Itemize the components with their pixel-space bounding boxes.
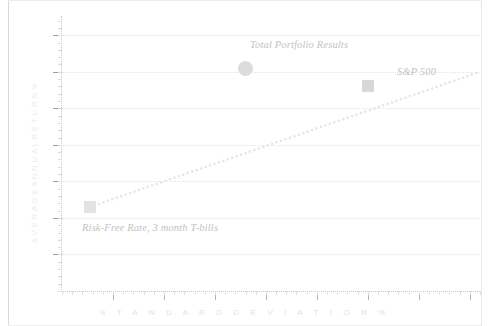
y-axis-minor-tick	[58, 211, 62, 212]
x-axis-minor-tick	[409, 291, 410, 295]
x-axis-minor-tick	[358, 291, 359, 295]
x-axis-minor-tick	[266, 291, 267, 295]
x-axis-minor-tick	[449, 291, 450, 295]
x-axis-minor-tick	[337, 291, 338, 295]
chart-figure: A V E R A G E A N N U A L R E T U R N % …	[0, 0, 490, 326]
y-axis-minor-tick	[58, 116, 62, 117]
x-axis-minor-tick	[82, 291, 83, 295]
y-axis-minor-tick	[58, 174, 62, 175]
plot-area: Total Portfolio Results S&P 500 Risk-Fre…	[62, 17, 480, 291]
data-point-2	[362, 80, 374, 92]
y-axis-minor-tick	[58, 225, 62, 226]
gridline-horizontal	[62, 218, 480, 219]
data-label-sp500: S&P 500	[397, 66, 436, 77]
y-axis-title: A V E R A G E A N N U A L R E T U R N %	[26, 0, 42, 326]
y-axis-minor-tick	[58, 145, 62, 146]
y-axis-minor-tick	[58, 152, 62, 153]
x-axis-minor-tick	[378, 291, 379, 295]
y-axis-minor-tick	[58, 269, 62, 270]
gridline-horizontal	[62, 254, 480, 255]
data-label-total-portfolio-results: Total Portfolio Results	[250, 39, 348, 50]
y-axis-minor-tick	[58, 240, 62, 241]
x-axis-title: S T A N D A R D D E V I A T I O N %	[0, 308, 490, 317]
x-axis-minor-tick	[215, 291, 216, 295]
y-axis-minor-tick	[58, 196, 62, 197]
y-axis-minor-tick	[58, 28, 62, 29]
x-axis-minor-tick	[133, 291, 134, 295]
y-axis-minor-tick	[58, 247, 62, 248]
x-axis-minor-tick	[276, 291, 277, 295]
y-axis-minor-tick	[58, 64, 62, 65]
y-axis-minor-tick	[58, 218, 62, 219]
y-axis-minor-tick	[58, 21, 62, 22]
x-axis-minor-tick	[205, 291, 206, 295]
y-axis-minor-tick	[58, 167, 62, 168]
x-axis-minor-tick	[368, 291, 369, 295]
x-axis-minor-tick	[184, 291, 185, 295]
x-axis-minor-tick	[225, 291, 226, 295]
x-axis-minor-tick	[398, 291, 399, 295]
gridline-horizontal	[62, 108, 480, 109]
y-axis-minor-tick	[58, 130, 62, 131]
y-axis-minor-tick	[58, 108, 62, 109]
gridline-horizontal	[62, 181, 480, 182]
x-axis-minor-tick	[154, 291, 155, 295]
x-axis-minor-tick	[480, 291, 481, 295]
x-axis-minor-tick	[235, 291, 236, 295]
y-axis-minor-tick	[58, 254, 62, 255]
data-label-risk-free-rate: Risk-Free Rate, 3 month T-bills	[82, 222, 218, 233]
x-axis-minor-tick	[327, 291, 328, 295]
x-axis-minor-tick	[93, 291, 94, 295]
y-axis-minor-tick	[58, 43, 62, 44]
y-axis-minor-tick	[58, 57, 62, 58]
y-axis-minor-tick	[58, 262, 62, 263]
x-axis-minor-tick	[347, 291, 348, 295]
y-axis-minor-tick	[58, 138, 62, 139]
y-axis-minor-tick	[58, 101, 62, 102]
x-axis-minor-tick	[307, 291, 308, 295]
figure-border-left	[8, 0, 9, 326]
x-axis-minor-tick	[439, 291, 440, 295]
gridline-horizontal	[62, 35, 480, 36]
y-axis-minor-tick	[58, 72, 62, 73]
x-axis-minor-tick	[62, 291, 63, 295]
x-axis-minor-tick	[256, 291, 257, 295]
x-axis-minor-tick	[246, 291, 247, 295]
y-axis-minor-tick	[58, 159, 62, 160]
y-axis-minor-tick	[58, 233, 62, 234]
y-axis-minor-tick	[58, 94, 62, 95]
y-axis-minor-tick	[58, 79, 62, 80]
x-axis-minor-tick	[103, 291, 104, 295]
y-axis-minor-tick	[58, 35, 62, 36]
x-axis-minor-tick	[164, 291, 165, 295]
x-axis-minor-tick	[388, 291, 389, 295]
capital-market-line	[62, 17, 480, 291]
y-axis-minor-tick	[58, 189, 62, 190]
x-axis-minor-tick	[123, 291, 124, 295]
x-axis-minor-tick	[195, 291, 196, 295]
y-axis-minor-tick	[58, 86, 62, 87]
x-axis-minor-tick	[429, 291, 430, 295]
y-axis-minor-tick	[58, 203, 62, 204]
x-axis-minor-tick	[470, 291, 471, 295]
x-axis-minor-tick	[460, 291, 461, 295]
figure-border-top	[8, 0, 481, 1]
x-axis-minor-tick	[113, 291, 114, 295]
x-axis-minor-tick	[296, 291, 297, 295]
y-axis-minor-tick	[58, 284, 62, 285]
data-point-1	[238, 61, 253, 76]
y-axis-minor-tick	[58, 276, 62, 277]
x-axis-minor-tick	[419, 291, 420, 295]
x-axis-minor-tick	[317, 291, 318, 295]
gridline-horizontal	[62, 145, 480, 146]
x-axis-minor-tick	[174, 291, 175, 295]
figure-border-right	[481, 0, 482, 326]
x-axis-minor-tick	[286, 291, 287, 295]
y-axis-minor-tick	[58, 123, 62, 124]
x-axis-minor-tick	[144, 291, 145, 295]
y-axis-minor-tick	[58, 50, 62, 51]
x-axis-minor-tick	[72, 291, 73, 295]
y-axis-minor-tick	[58, 181, 62, 182]
data-point-3	[84, 201, 96, 213]
